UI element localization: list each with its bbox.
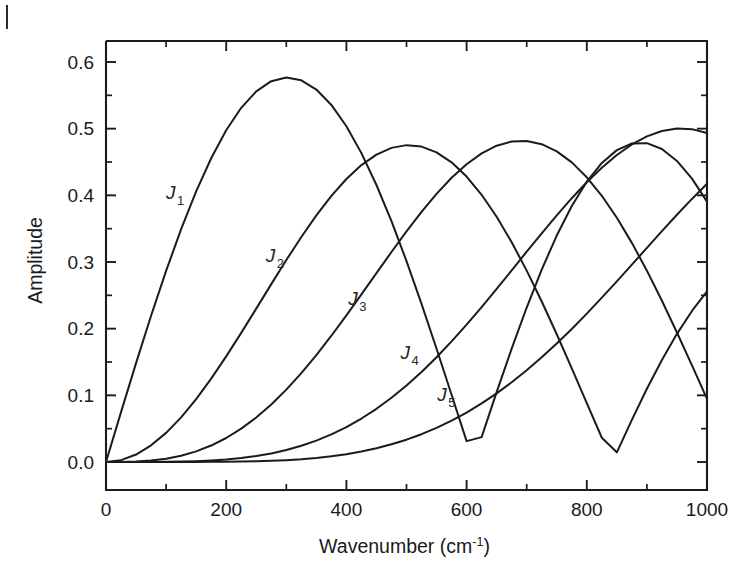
y-tick-label: 0.6: [68, 52, 94, 73]
y-tick-label: 0.4: [68, 185, 95, 206]
curve-label-subscript: 1: [177, 193, 184, 208]
y-axis-title: Amplitude: [24, 217, 46, 304]
curve-label-J2: J2: [265, 245, 284, 271]
curve-label-J4: J4: [399, 342, 418, 368]
x-tick-label: 200: [210, 499, 242, 520]
curve-label-letter: J: [399, 342, 410, 363]
x-tick-label: 600: [451, 499, 483, 520]
x-tick-label: 0: [101, 499, 112, 520]
bessel-plot-svg: 020040060080010000.00.10.20.30.40.50.6J1…: [0, 0, 751, 585]
curve-label-J5: J5: [436, 384, 455, 410]
curve-label-letter: J: [347, 288, 358, 309]
x-tick-label: 1000: [686, 499, 728, 520]
y-tick-label: 0.2: [68, 318, 94, 339]
curve-label-subscript: 5: [448, 395, 455, 410]
y-tick-label: 0.0: [68, 452, 94, 473]
y-tick-label: 0.1: [68, 385, 94, 406]
curve-label-J1: J1: [165, 182, 184, 208]
curve-label-subscript: 4: [411, 353, 418, 368]
curve-J1: [106, 78, 707, 462]
x-axis-title: Wavenumber (cm-1): [319, 535, 490, 557]
plot-frame: [106, 41, 707, 490]
x-axis-title-superscript: -1: [472, 535, 483, 549]
curve-J4: [106, 129, 707, 462]
curve-label-subscript: 2: [277, 256, 284, 271]
y-tick-label: 0.3: [68, 252, 94, 273]
curve-J5: [106, 184, 707, 462]
curve-label-letter: J: [436, 384, 447, 405]
chart-figure: 020040060080010000.00.10.20.30.40.50.6J1…: [0, 0, 751, 585]
curve-label-subscript: 3: [359, 299, 366, 314]
curve-label-letter: J: [265, 245, 276, 266]
x-tick-label: 400: [331, 499, 363, 520]
curve-label-letter: J: [165, 182, 176, 203]
y-tick-label: 0.5: [68, 118, 94, 139]
page-edge-tick-mark: [6, 5, 8, 29]
x-tick-label: 800: [571, 499, 603, 520]
x-axis-title-text: Wavenumber (cm-1): [319, 535, 490, 557]
